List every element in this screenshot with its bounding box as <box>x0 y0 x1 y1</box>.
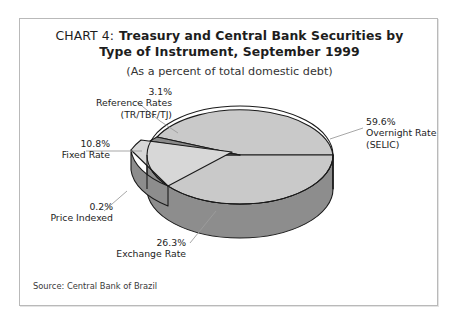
label-reference-rates: 3.1% Reference Rates (TR/TBF/TJ) <box>96 86 172 120</box>
title-line-2: Type of Instrument, September 1999 <box>20 44 439 60</box>
label-overnight-rate-pct: 59.6% <box>366 116 436 127</box>
label-price-indexed-name: Price Indexed <box>50 212 113 223</box>
chart-number-label: CHART 4: <box>56 28 115 43</box>
title-main-1: Treasury and Central Bank Securities by <box>119 28 403 43</box>
label-reference-rates-name: Reference Rates <box>96 97 172 108</box>
label-fixed-rate: 10.8% Fixed Rate <box>62 138 110 161</box>
chart-frame: CHART 4:Treasury and Central Bank Securi… <box>19 18 438 306</box>
title-line-1: CHART 4:Treasury and Central Bank Securi… <box>20 28 439 44</box>
label-overnight-rate-name: Overnight Rate <box>366 127 436 138</box>
label-reference-rates-pct: 3.1% <box>96 86 172 97</box>
source-note: Source: Central Bank of Brazil <box>33 281 157 291</box>
label-exchange-rate: 26.3% Exchange Rate <box>116 237 186 260</box>
label-exchange-rate-name: Exchange Rate <box>116 248 186 259</box>
label-overnight-rate: 59.6% Overnight Rate (SELIC) <box>366 116 436 150</box>
label-reference-rates-sub: (TR/TBF/TJ) <box>96 109 172 120</box>
label-price-indexed: 0.2% Price Indexed <box>50 201 113 224</box>
chart-subtitle: (As a percent of total domestic debt) <box>20 65 439 78</box>
label-overnight-rate-sub: (SELIC) <box>366 139 436 150</box>
label-fixed-rate-name: Fixed Rate <box>62 149 110 160</box>
label-price-indexed-pct: 0.2% <box>50 201 113 212</box>
label-fixed-rate-pct: 10.8% <box>62 138 110 149</box>
chart-title: CHART 4:Treasury and Central Bank Securi… <box>20 28 439 59</box>
label-exchange-rate-pct: 26.3% <box>116 237 186 248</box>
